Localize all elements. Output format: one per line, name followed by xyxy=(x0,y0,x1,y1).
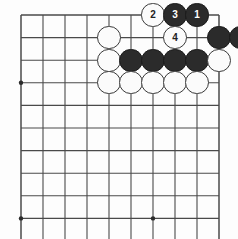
stone-white xyxy=(97,26,120,49)
stone-black-move-1: 1 xyxy=(185,3,208,26)
stone-black xyxy=(141,49,164,72)
stone-white xyxy=(97,71,120,94)
stone-white xyxy=(97,49,120,72)
stone-white xyxy=(163,71,186,94)
go-board-diagram: 2314 xyxy=(0,0,238,239)
stone-white-move-4: 4 xyxy=(163,26,186,49)
stone-black xyxy=(229,26,238,49)
stone-black-move-3: 3 xyxy=(163,3,186,26)
stone-move-number: 1 xyxy=(194,9,200,19)
stone-white xyxy=(185,71,208,94)
stone-black xyxy=(207,26,230,49)
stone-black xyxy=(185,49,208,72)
stone-white xyxy=(207,49,230,72)
stone-move-number: 4 xyxy=(172,32,178,42)
stone-black xyxy=(163,49,186,72)
stone-move-number: 3 xyxy=(172,9,178,19)
stone-white xyxy=(141,71,164,94)
stone-layer: 2314 xyxy=(0,0,238,239)
stone-move-number: 2 xyxy=(150,9,156,19)
stone-black xyxy=(119,49,142,72)
stone-white xyxy=(119,71,142,94)
stone-white-move-2: 2 xyxy=(141,3,164,26)
